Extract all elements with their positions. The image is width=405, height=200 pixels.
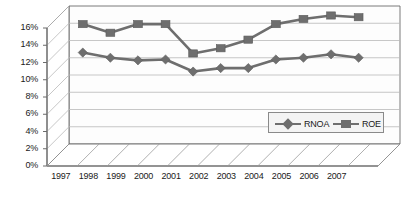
y-axis-tick-label: 14% bbox=[8, 39, 38, 49]
y-axis-tick-label: 10% bbox=[8, 74, 38, 84]
y-tick-marks bbox=[43, 28, 47, 166]
data-point-square bbox=[354, 14, 363, 21]
legend-item-roe: ROE bbox=[333, 113, 381, 134]
chart-floor bbox=[47, 144, 400, 166]
chart-svg bbox=[0, 0, 405, 200]
chart-legend: RNOA ROE bbox=[268, 112, 384, 133]
data-point-square bbox=[134, 21, 143, 28]
data-point-square bbox=[216, 45, 225, 52]
y-axis-tick-label: 6% bbox=[8, 108, 38, 118]
y-axis-tick-label: 4% bbox=[8, 126, 38, 136]
data-point-square bbox=[106, 29, 115, 36]
y-axis-tick-label: 2% bbox=[8, 143, 38, 153]
x-axis-tick-label: 2007 bbox=[320, 171, 354, 181]
data-point-square bbox=[244, 36, 253, 43]
y-axis-tick-label: 12% bbox=[8, 57, 38, 67]
data-point-square bbox=[327, 12, 336, 19]
data-point-square bbox=[299, 15, 308, 22]
y-axis-tick-label: 8% bbox=[8, 91, 38, 101]
y-axis-tick-label: 16% bbox=[8, 22, 38, 32]
diamond-marker-icon bbox=[275, 118, 301, 130]
data-point-square bbox=[161, 21, 170, 28]
chart-container: 0%2%4%6%8%10%12%14%16% 19971998199920002… bbox=[0, 0, 405, 200]
data-point-square bbox=[189, 50, 198, 57]
square-marker-icon bbox=[333, 118, 359, 130]
legend-item-rnoa: RNOA bbox=[275, 113, 329, 134]
legend-label-roe: ROE bbox=[362, 119, 381, 129]
data-point-square bbox=[78, 21, 87, 28]
y-axis-tick-label: 0% bbox=[8, 160, 38, 170]
legend-label-rnoa: RNOA bbox=[304, 119, 329, 129]
data-point-square bbox=[271, 21, 280, 28]
